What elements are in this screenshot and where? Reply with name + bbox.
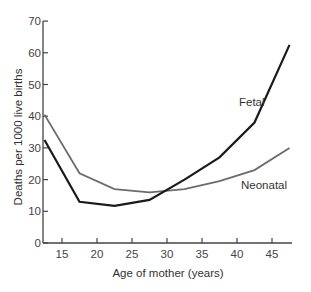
line-chart: 010203040506070 15202530354045 Deaths pe… (0, 0, 311, 292)
y-tick-label: 0 (35, 237, 41, 249)
x-tick-label: 15 (56, 248, 69, 260)
x-axis-title: Age of mother (years) (112, 267, 223, 279)
y-axis: 010203040506070 (28, 15, 48, 249)
y-tick-label: 20 (28, 174, 41, 186)
x-axis: 15202530354045 (43, 238, 292, 260)
x-tick-label: 30 (161, 248, 174, 260)
y-tick-label: 50 (28, 79, 41, 91)
x-tick-label: 25 (126, 248, 139, 260)
x-tick-label: 35 (196, 248, 209, 260)
y-tick-label: 70 (28, 15, 41, 27)
x-tick-label: 20 (91, 248, 104, 260)
y-tick-label: 30 (28, 142, 41, 154)
series-label-fetal: Fetal (239, 96, 265, 108)
x-tick-label: 40 (231, 248, 244, 260)
x-tick-label: 45 (266, 248, 279, 260)
series-label-neonatal: Neonatal (241, 179, 287, 191)
y-tick-label: 10 (28, 205, 41, 217)
y-tick-label: 40 (28, 110, 41, 122)
y-tick-label: 60 (28, 47, 41, 59)
y-axis-title: Deaths per 1000 live births (12, 68, 24, 205)
